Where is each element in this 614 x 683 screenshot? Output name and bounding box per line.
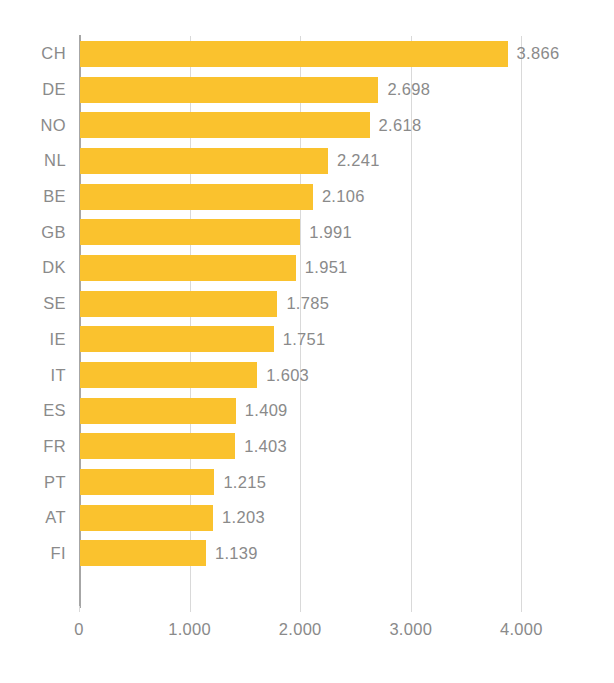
bar-wrap-gb: 1.991 [80, 214, 614, 250]
bar-value-dk: 1.951 [305, 258, 348, 277]
table-row: DK 1.951 [0, 250, 614, 286]
x-tick-mark-0 [79, 606, 80, 612]
bar-value-fi: 1.139 [215, 544, 258, 563]
bar-value-fr: 1.403 [244, 437, 287, 456]
bar-wrap-fr: 1.403 [80, 429, 614, 465]
caption-cutoff [26, 676, 586, 683]
table-row: IT 1.603 [0, 357, 614, 393]
bar-wrap-fi: 1.139 [80, 536, 614, 572]
category-label-be: BE [0, 179, 66, 215]
category-label-dk: DK [0, 250, 66, 286]
bar-value-ch: 3.866 [517, 44, 560, 63]
bar-wrap-se: 1.785 [80, 286, 614, 322]
bar-dk [80, 255, 296, 281]
bar-wrap-es: 1.409 [80, 393, 614, 429]
table-row: ES 1.409 [0, 393, 614, 429]
bar-value-es: 1.409 [245, 401, 288, 420]
bar-chart: CH 3.866 DE 2.698 NO 2.618 NL 2. [0, 0, 614, 683]
category-label-se: SE [0, 286, 66, 322]
table-row: NL 2.241 [0, 143, 614, 179]
bar-at [80, 505, 213, 531]
table-row: NO 2.618 [0, 107, 614, 143]
table-row: AT 1.203 [0, 500, 614, 536]
category-label-nl: NL [0, 143, 66, 179]
category-label-pt: PT [0, 464, 66, 500]
bar-it [80, 362, 257, 388]
x-tick-mark-1000 [190, 606, 191, 612]
category-label-ch: CH [0, 36, 66, 72]
category-label-es: ES [0, 393, 66, 429]
bar-ch [80, 41, 508, 67]
bar-value-at: 1.203 [222, 508, 265, 527]
bar-wrap-dk: 1.951 [80, 250, 614, 286]
bar-nl [80, 148, 328, 174]
x-tick-label-2000: 2.000 [279, 620, 322, 639]
category-label-ie: IE [0, 322, 66, 358]
bar-value-nl: 2.241 [337, 151, 380, 170]
bar-es [80, 398, 236, 424]
bar-value-pt: 1.215 [223, 473, 266, 492]
bar-be [80, 184, 313, 210]
x-tick-mark-2000 [300, 606, 301, 612]
bar-value-be: 2.106 [322, 187, 365, 206]
x-tick-mark-3000 [411, 606, 412, 612]
bar-wrap-at: 1.203 [80, 500, 614, 536]
bar-ie [80, 326, 274, 352]
table-row: FR 1.403 [0, 429, 614, 465]
x-tick-label-4000: 4.000 [500, 620, 543, 639]
category-label-gb: GB [0, 214, 66, 250]
bar-value-ie: 1.751 [283, 330, 326, 349]
category-label-fi: FI [0, 536, 66, 572]
table-row: IE 1.751 [0, 322, 614, 358]
table-row: CH 3.866 [0, 36, 614, 72]
x-tick-label-1000: 1.000 [168, 620, 211, 639]
bar-value-gb: 1.991 [309, 223, 352, 242]
x-axis: 0 1.000 2.000 3.000 4.000 [0, 612, 614, 652]
category-label-at: AT [0, 500, 66, 536]
bar-fr [80, 433, 235, 459]
bar-wrap-be: 2.106 [80, 179, 614, 215]
table-row: DE 2.698 [0, 72, 614, 108]
category-label-de: DE [0, 72, 66, 108]
bar-wrap-pt: 1.215 [80, 464, 614, 500]
table-row: SE 1.785 [0, 286, 614, 322]
x-tick-label-3000: 3.000 [389, 620, 432, 639]
x-tick-label-0: 0 [74, 620, 83, 639]
bar-wrap-de: 2.698 [80, 72, 614, 108]
bar-no [80, 112, 370, 138]
category-label-it: IT [0, 357, 66, 393]
bar-wrap-nl: 2.241 [80, 143, 614, 179]
bar-wrap-ch: 3.866 [80, 36, 614, 72]
category-label-fr: FR [0, 429, 66, 465]
bar-wrap-ie: 1.751 [80, 322, 614, 358]
bar-fi [80, 540, 206, 566]
bar-wrap-no: 2.618 [80, 107, 614, 143]
bar-value-de: 2.698 [387, 80, 430, 99]
table-row: FI 1.139 [0, 536, 614, 572]
table-row: GB 1.991 [0, 214, 614, 250]
bar-gb [80, 219, 300, 245]
table-row: PT 1.215 [0, 464, 614, 500]
bar-value-se: 1.785 [286, 294, 329, 313]
bar-value-no: 2.618 [379, 116, 422, 135]
bar-de [80, 77, 378, 103]
bar-wrap-it: 1.603 [80, 357, 614, 393]
bar-rows: CH 3.866 DE 2.698 NO 2.618 NL 2. [0, 36, 614, 607]
bar-pt [80, 469, 214, 495]
table-row: BE 2.106 [0, 179, 614, 215]
x-tick-mark-4000 [521, 606, 522, 612]
bar-se [80, 291, 277, 317]
bar-value-it: 1.603 [266, 366, 309, 385]
category-label-no: NO [0, 107, 66, 143]
